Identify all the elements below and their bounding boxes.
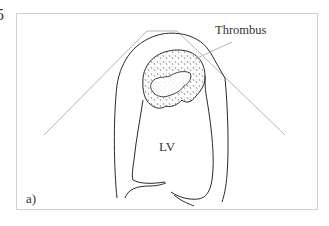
lv-label: LV: [159, 139, 175, 155]
thrombus-leader-line: [195, 42, 232, 59]
thrombus-label: Thrombus: [215, 23, 266, 38]
echo-diagram: [0, 0, 329, 226]
panel-label: a): [26, 191, 36, 207]
